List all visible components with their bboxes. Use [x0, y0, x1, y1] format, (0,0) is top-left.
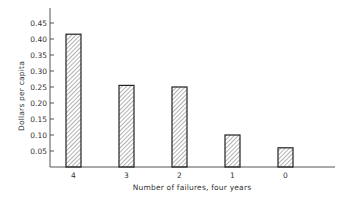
- y-axis-title: Dollars per capita: [17, 61, 26, 131]
- y-tick-label: 0.25: [30, 83, 47, 92]
- y-tick-label: 0.40: [30, 35, 47, 44]
- bar-1: [225, 135, 240, 167]
- x-axis-title: Number of failures, four years: [133, 183, 252, 192]
- y-tick-label: 0.45: [30, 19, 47, 28]
- y-tick-label: 0.35: [30, 51, 47, 60]
- x-tick-label: 2: [177, 171, 182, 180]
- bar-0: [278, 148, 293, 167]
- bars: [66, 34, 293, 167]
- y-tick-label: 0.05: [30, 147, 47, 156]
- x-tick-label: 1: [230, 171, 235, 180]
- y-axis: 0.050.100.150.200.250.300.350.400.45: [30, 8, 54, 167]
- x-tick-label: 4: [71, 171, 76, 180]
- y-tick-label: 0.10: [30, 131, 47, 140]
- x-tick-label: 0: [283, 171, 288, 180]
- bar-4: [66, 34, 81, 167]
- bar-chart: 0.050.100.150.200.250.300.350.400.45 432…: [0, 0, 349, 200]
- x-tick-label: 3: [124, 171, 129, 180]
- bar-2: [172, 87, 187, 167]
- y-tick-label: 0.20: [30, 99, 47, 108]
- bar-3: [119, 85, 134, 167]
- y-tick-label: 0.15: [30, 115, 47, 124]
- x-axis: 43210: [50, 167, 335, 180]
- y-tick-label: 0.30: [30, 67, 47, 76]
